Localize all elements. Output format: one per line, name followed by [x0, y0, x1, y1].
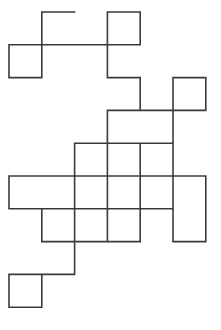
figure-canvas	[0, 0, 221, 330]
canvas-background	[0, 0, 221, 330]
